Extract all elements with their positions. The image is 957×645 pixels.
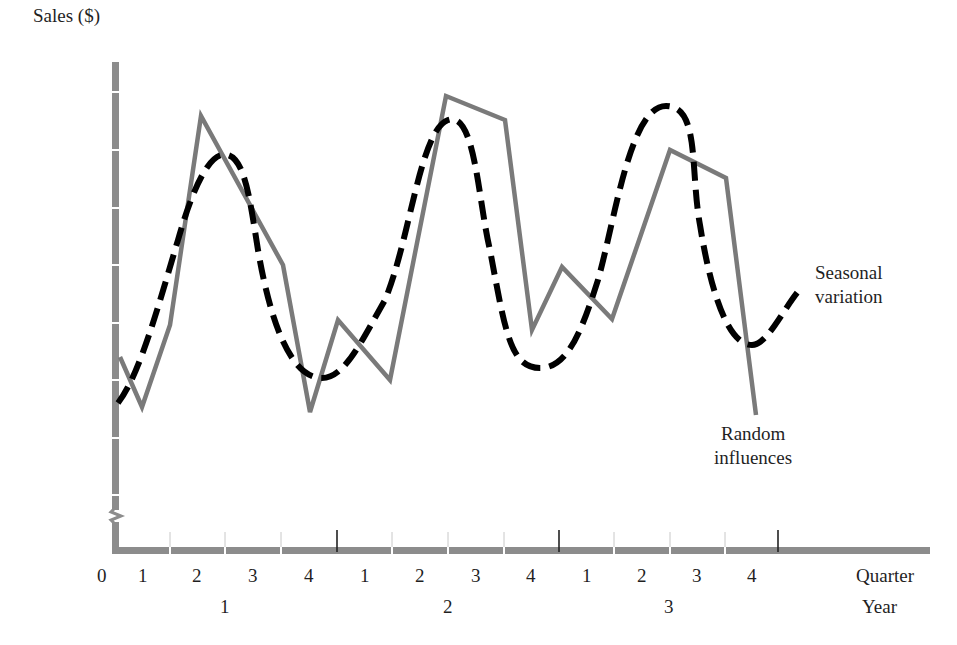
svg-text:4: 4 xyxy=(747,565,757,586)
y-axis xyxy=(111,62,121,552)
svg-text:Seasonal: Seasonal xyxy=(815,262,883,283)
svg-text:3: 3 xyxy=(471,565,481,586)
quarter-axis-label: Quarter xyxy=(856,565,915,586)
svg-text:3: 3 xyxy=(664,596,674,617)
svg-text:2: 2 xyxy=(192,565,202,586)
svg-text:2: 2 xyxy=(415,565,425,586)
seasonal-sales-chart: Sales ($) 0 1 2 3 4 1 2 3 4 1 2 3 4 Quar… xyxy=(0,0,957,645)
svg-text:influences: influences xyxy=(714,447,792,468)
svg-text:2: 2 xyxy=(443,596,453,617)
svg-text:4: 4 xyxy=(304,565,314,586)
svg-text:1: 1 xyxy=(138,565,148,586)
svg-text:variation: variation xyxy=(815,286,883,307)
svg-text:4: 4 xyxy=(526,565,536,586)
seasonal-variation-annotation: Seasonal variation xyxy=(815,262,883,307)
quarter-tick-labels: 1 2 3 4 1 2 3 4 1 2 3 4 xyxy=(138,565,757,586)
random-influences-line xyxy=(120,96,756,415)
svg-text:Random: Random xyxy=(721,423,786,444)
svg-text:3: 3 xyxy=(692,565,702,586)
random-influences-annotation: Random influences xyxy=(714,423,792,468)
origin-label: 0 xyxy=(97,565,107,586)
svg-text:3: 3 xyxy=(248,565,258,586)
axis-break-icon xyxy=(111,508,121,524)
y-axis-label: Sales ($) xyxy=(33,5,100,27)
x-axis xyxy=(112,530,930,554)
svg-text:1: 1 xyxy=(582,565,592,586)
svg-text:1: 1 xyxy=(220,596,230,617)
svg-text:1: 1 xyxy=(360,565,370,586)
year-tick-labels: 1 2 3 xyxy=(220,596,674,617)
year-axis-label: Year xyxy=(862,596,898,617)
svg-text:2: 2 xyxy=(637,565,647,586)
